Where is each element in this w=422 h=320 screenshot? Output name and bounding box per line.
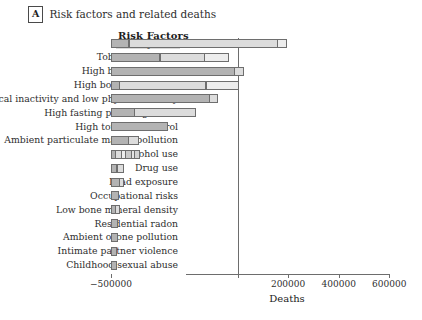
bar-segment[interactable]	[209, 94, 218, 103]
bar-rows	[186, 38, 398, 274]
stacked-bar[interactable]	[111, 233, 117, 242]
bar-row[interactable]	[186, 136, 398, 145]
x-axis-tick	[238, 274, 239, 278]
plot-area: Deaths −500000200000400000600000800000	[186, 38, 398, 274]
stacked-bar[interactable]	[111, 108, 196, 117]
bar-segment[interactable]	[129, 39, 278, 48]
x-axis-tick-label: 600000	[372, 279, 406, 289]
bar-row[interactable]	[186, 67, 398, 76]
bar-segment[interactable]	[111, 233, 118, 242]
risk-factors-bar-chart: Risk Factors Dietary risksTobacco smokin…	[0, 0, 422, 320]
bar-row[interactable]	[186, 150, 398, 159]
bar-segment[interactable]	[111, 94, 210, 103]
x-axis-tick-label: 200000	[271, 279, 305, 289]
bar-segment[interactable]	[111, 191, 119, 200]
stacked-bar[interactable]	[111, 39, 287, 48]
bar-segment[interactable]	[115, 205, 120, 214]
category-label[interactable]: Occupational risks	[90, 191, 178, 201]
bar-segment[interactable]	[134, 150, 140, 159]
x-axis-tick	[111, 274, 112, 278]
category-label[interactable]: Drug use	[135, 163, 178, 173]
bar-segment[interactable]	[204, 53, 228, 62]
stacked-bar[interactable]	[111, 164, 124, 173]
stacked-bar[interactable]	[111, 122, 167, 131]
x-axis-tick-label: −500000	[90, 279, 132, 289]
stacked-bar[interactable]	[111, 81, 238, 90]
bar-segment[interactable]	[111, 122, 168, 131]
stacked-bar[interactable]	[111, 205, 119, 214]
bar-segment[interactable]	[277, 39, 287, 48]
stacked-bar[interactable]	[111, 136, 139, 145]
x-axis-tick	[389, 274, 390, 278]
category-label[interactable]: Intimate partner violence	[58, 246, 178, 256]
bar-segment[interactable]	[111, 53, 160, 62]
bar-segment[interactable]	[111, 136, 129, 145]
bar-row[interactable]	[186, 191, 398, 200]
bar-segment[interactable]	[111, 247, 117, 256]
x-axis-title: Deaths	[269, 293, 305, 304]
bar-segment[interactable]	[111, 261, 117, 270]
stacked-bar[interactable]	[111, 150, 140, 159]
bar-row[interactable]	[186, 205, 398, 214]
bar-segment[interactable]	[134, 108, 196, 117]
bar-row[interactable]	[186, 39, 398, 48]
x-axis-tick	[339, 274, 340, 278]
category-label[interactable]: Childhood sexual abuse	[66, 260, 178, 270]
bar-row[interactable]	[186, 247, 398, 256]
bar-segment[interactable]	[111, 39, 129, 48]
bar-segment[interactable]	[117, 164, 125, 173]
bar-segment[interactable]	[160, 53, 206, 62]
x-axis-tick-label: 400000	[322, 279, 356, 289]
bar-segment[interactable]	[111, 67, 235, 76]
stacked-bar[interactable]	[111, 261, 117, 270]
bar-row[interactable]	[186, 53, 398, 62]
bar-row[interactable]	[186, 94, 398, 103]
bar-segment[interactable]	[111, 108, 135, 117]
category-label[interactable]: Ambient ozone pollution	[63, 232, 178, 242]
stacked-bar[interactable]	[111, 178, 124, 187]
bar-row[interactable]	[186, 164, 398, 173]
stacked-bar[interactable]	[111, 191, 118, 200]
bar-row[interactable]	[186, 108, 398, 117]
category-label[interactable]: Residential radon	[95, 219, 178, 229]
bar-row[interactable]	[186, 261, 398, 270]
stacked-bar[interactable]	[111, 94, 217, 103]
bar-segment[interactable]	[111, 219, 118, 228]
bar-row[interactable]	[186, 178, 398, 187]
stacked-bar[interactable]	[111, 53, 228, 62]
stacked-bar[interactable]	[111, 67, 244, 76]
category-label[interactable]: Ambient particulate matter pollution	[4, 135, 178, 145]
bar-row[interactable]	[186, 219, 398, 228]
bar-row[interactable]	[186, 233, 398, 242]
bar-segment[interactable]	[234, 67, 244, 76]
bar-row[interactable]	[186, 81, 398, 90]
bar-segment[interactable]	[206, 81, 239, 90]
x-axis-tick	[288, 274, 289, 278]
bar-segment[interactable]	[119, 178, 124, 187]
stacked-bar[interactable]	[111, 219, 117, 228]
bar-segment[interactable]	[119, 81, 206, 90]
bar-segment[interactable]	[128, 136, 139, 145]
bar-row[interactable]	[186, 122, 398, 131]
stacked-bar[interactable]	[111, 247, 116, 256]
